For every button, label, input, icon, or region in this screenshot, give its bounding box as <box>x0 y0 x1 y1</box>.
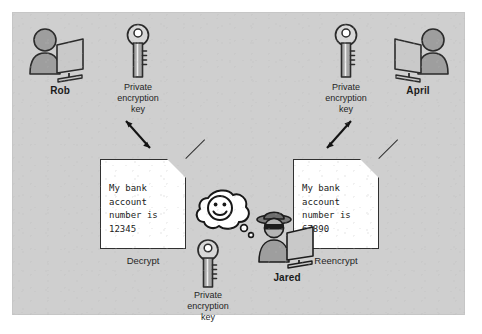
actor-april-label: April <box>382 85 454 96</box>
document-fold-corner <box>167 159 186 178</box>
private-key-icon <box>172 238 244 288</box>
key-left-line2: encryption <box>102 93 174 104</box>
key-right-label: Private encryption key <box>310 82 382 115</box>
key-middle-label: Private encryption key <box>172 290 244 323</box>
connector-right-arrow <box>312 112 360 160</box>
diagram-canvas: Rob Private encryption key <box>0 0 482 334</box>
actor-jared-label: Jared <box>249 272 325 283</box>
key-middle: Private encryption key <box>172 238 244 323</box>
key-left-line1: Private <box>102 82 174 93</box>
document-fold-line <box>185 139 205 159</box>
document-fold-line <box>378 139 398 159</box>
actor-jared: Jared <box>249 206 325 283</box>
key-right-line2: encryption <box>310 93 382 104</box>
key-left: Private encryption key <box>102 22 174 115</box>
key-right-line1: Private <box>310 82 382 93</box>
key-right: Private encryption key <box>310 22 382 115</box>
double-headed-arrow-icon <box>117 112 165 160</box>
connector-left-arrow <box>117 112 165 160</box>
actor-rob-label: Rob <box>24 85 96 96</box>
document-left-body: My bank account number is 12345 <box>100 159 186 249</box>
private-key-icon <box>310 22 382 80</box>
document-left-text: My bank account number is 12345 <box>109 182 179 236</box>
key-middle-line3: key <box>172 312 244 323</box>
hacker-at-computer-icon <box>249 206 325 266</box>
key-middle-line2: encryption <box>172 301 244 312</box>
actor-april: April <box>382 26 454 96</box>
double-headed-arrow-icon <box>312 112 360 160</box>
private-key-icon <box>102 22 174 80</box>
document-fold-corner <box>360 159 379 178</box>
diagram-stage: Rob Private encryption key <box>12 12 465 315</box>
actor-rob: Rob <box>24 26 96 96</box>
person-at-computer-icon <box>382 26 454 82</box>
key-middle-line1: Private <box>172 290 244 301</box>
person-at-computer-icon <box>24 26 96 82</box>
key-left-label: Private encryption key <box>102 82 174 115</box>
